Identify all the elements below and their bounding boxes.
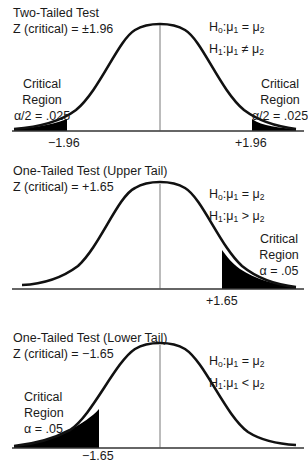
right-critical-region-label: Critical Region α/2 = .025 [248, 76, 308, 124]
critical-region-label: Critical Region α = .05 [250, 231, 308, 279]
null-hypothesis: Ho:μ1 = μ2 [209, 17, 264, 41]
two-tailed-panel: Two-Tailed Test Z (critical) = ±1.96 Ho:… [0, 0, 308, 150]
null-hypothesis: Ho:μ1 = μ2 [209, 184, 264, 208]
right-critical-value: +1.96 [235, 135, 267, 151]
z-critical-label: Z (critical) = −1.65 [13, 346, 114, 362]
alternative-hypothesis: H1:μ1 < μ2 [209, 373, 264, 397]
z-critical-label: Z (critical) = +1.65 [13, 179, 114, 195]
left-critical-region-label: Critical Region α/2 = .025 [10, 76, 74, 124]
upper-tail-panel: One-Tailed Test (Upper Tail) Z (critical… [0, 158, 308, 308]
lower-tail-panel: One-Tailed Test (Lower Tail) Z (critical… [0, 317, 308, 463]
panel-title: Two-Tailed Test [13, 5, 99, 21]
critical-value: +1.65 [206, 293, 238, 309]
panel-title: One-Tailed Test (Lower Tail) [13, 330, 167, 346]
z-critical-label: Z (critical) = ±1.96 [13, 21, 113, 37]
alternative-hypothesis: H1:μ1 > μ2 [209, 206, 264, 230]
alternative-hypothesis: H1:μ1 ≠ μ2 [209, 39, 264, 63]
left-critical-value: −1.96 [48, 135, 80, 151]
null-hypothesis: Ho:μ1 = μ2 [209, 351, 264, 375]
critical-region-label: Critical Region α = .05 [24, 389, 64, 437]
panel-title: One-Tailed Test (Upper Tail) [13, 163, 167, 179]
critical-value: −1.65 [82, 448, 114, 463]
